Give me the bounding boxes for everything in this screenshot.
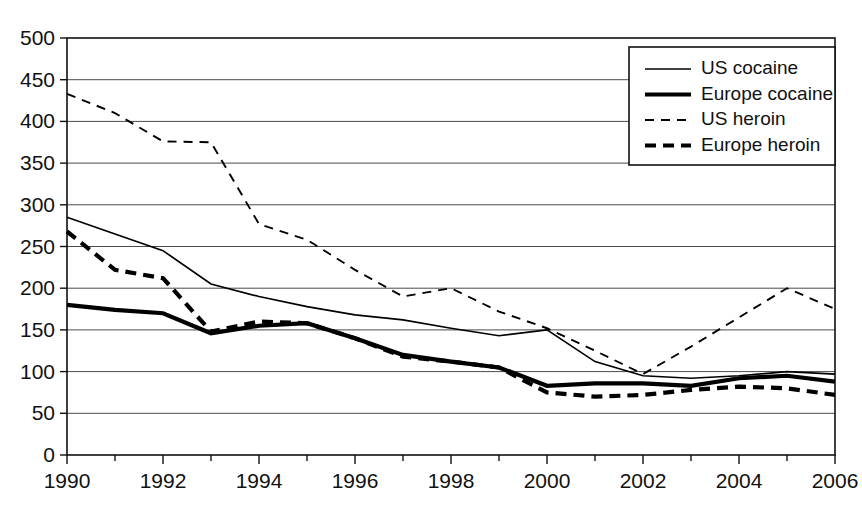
x-axis-tick-labels: 199019921994199619982000200220042006 bbox=[44, 469, 859, 492]
y-tick-label: 350 bbox=[20, 151, 55, 174]
legend-label-europe-heroin: Europe heroin bbox=[701, 134, 820, 155]
x-tick-label: 1992 bbox=[140, 469, 187, 492]
chart-canvas: 050100150200250300350400450500 199019921… bbox=[0, 0, 862, 520]
x-tick-label: 1990 bbox=[44, 469, 91, 492]
x-tick-label: 1994 bbox=[236, 469, 283, 492]
chart-legend: US cocaineEurope cocaineUS heroinEurope … bbox=[629, 47, 835, 165]
y-tick-label: 100 bbox=[20, 360, 55, 383]
x-tick-label: 2000 bbox=[524, 469, 571, 492]
y-tick-label: 450 bbox=[20, 68, 55, 91]
y-tick-label: 500 bbox=[20, 26, 55, 49]
x-tick-label: 2004 bbox=[716, 469, 763, 492]
legend-label-us-heroin: US heroin bbox=[701, 108, 786, 129]
y-tick-label: 150 bbox=[20, 318, 55, 341]
y-tick-label: 50 bbox=[32, 401, 55, 424]
y-tick-label: 200 bbox=[20, 276, 55, 299]
x-tick-label: 1996 bbox=[332, 469, 379, 492]
y-tick-label: 400 bbox=[20, 109, 55, 132]
x-tick-label: 2002 bbox=[620, 469, 667, 492]
legend-label-us-cocaine: US cocaine bbox=[701, 57, 798, 78]
y-tick-label: 300 bbox=[20, 193, 55, 216]
line-chart: 050100150200250300350400450500 199019921… bbox=[0, 0, 862, 520]
y-tick-label: 0 bbox=[43, 443, 55, 466]
y-tick-label: 250 bbox=[20, 235, 55, 258]
legend-label-europe-cocaine: Europe cocaine bbox=[701, 83, 833, 104]
x-tick-label: 1998 bbox=[428, 469, 475, 492]
x-tick-label: 2006 bbox=[812, 469, 859, 492]
